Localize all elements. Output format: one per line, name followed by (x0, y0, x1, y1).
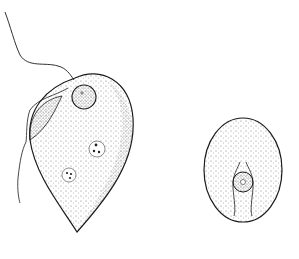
vacuole-2 (62, 168, 76, 182)
vacuole-1 (89, 141, 105, 157)
cyst (204, 118, 282, 222)
cyst-wall (204, 118, 282, 222)
protozoa-illustration (0, 0, 299, 259)
flagellum (5, 12, 74, 80)
illustration-canvas (0, 0, 299, 259)
trophozoite (5, 12, 133, 232)
nucleus (72, 85, 96, 109)
